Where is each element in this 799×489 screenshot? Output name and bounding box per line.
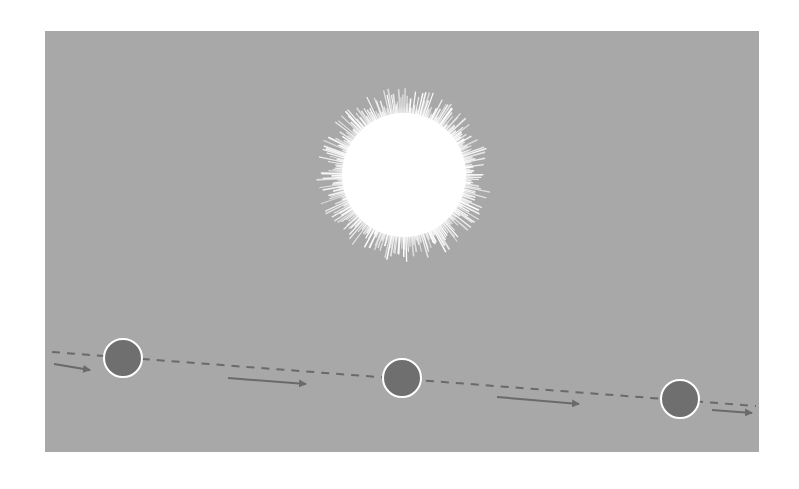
sun-icon [342, 113, 466, 237]
planet-position-1 [104, 339, 142, 377]
planet-position-2 [383, 359, 421, 397]
planet-position-3 [661, 380, 699, 418]
transit-diagram [0, 0, 799, 489]
